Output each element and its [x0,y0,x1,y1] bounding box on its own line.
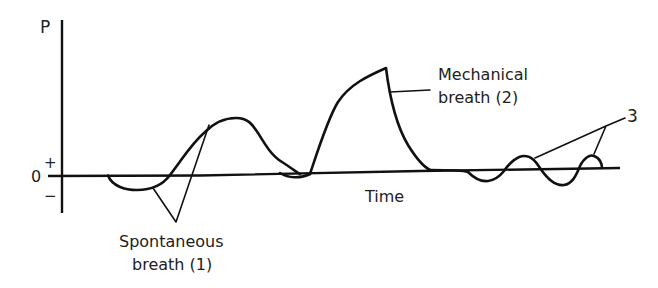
plus-label: + [44,154,57,172]
x-axis-label: Time [364,187,404,206]
y-axis-label: P [40,17,50,37]
spontaneous-callout-lines [153,125,209,222]
mechanical-callout-line [390,90,430,92]
spontaneous-breath-curve [108,118,300,190]
label-3: 3 [627,106,638,126]
spontaneous-label-line2: breath (1) [132,255,212,274]
oscillation-callout-lines [535,118,625,158]
mechanical-label-line2: breath (2) [438,88,518,107]
pressure-time-diagram: P 0 + − Time Spontaneous breath (1) Mech… [0,0,658,288]
x-axis-baseline [48,168,620,176]
mechanical-breath-curve [310,68,430,174]
zero-label: 0 [31,167,41,186]
spontaneous-label-line1: Spontaneous [119,232,224,251]
mechanical-label-line1: Mechanical [438,65,528,84]
minus-label: − [44,187,57,205]
